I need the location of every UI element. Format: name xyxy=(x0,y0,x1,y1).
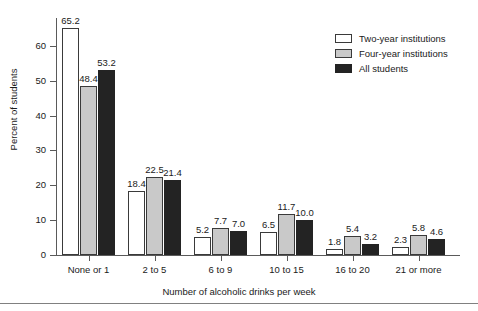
y-tick-label: 0 xyxy=(4,250,46,259)
bar-value-label: 7.0 xyxy=(225,218,252,229)
legend-item-two-year: Two-year institutions xyxy=(335,32,448,45)
x-tick xyxy=(287,256,288,261)
bar xyxy=(80,86,97,255)
y-tick-label: 10 xyxy=(4,215,46,224)
x-tick xyxy=(353,256,354,261)
bar xyxy=(296,220,313,255)
x-axis-line xyxy=(56,255,460,256)
legend-swatch-four-year-icon xyxy=(335,49,352,58)
bar xyxy=(146,177,163,255)
y-tick xyxy=(50,255,56,256)
bar-value-label: 53.2 xyxy=(93,57,120,68)
y-tick-label: 30 xyxy=(4,145,46,154)
legend-item-four-year: Four-year institutions xyxy=(335,47,448,60)
chart-legend: Two-year institutions Four-year institut… xyxy=(335,32,448,77)
bar xyxy=(260,232,277,255)
bar-value-label: 4.6 xyxy=(423,226,450,237)
x-tick xyxy=(419,256,420,261)
legend-label-four-year: Four-year institutions xyxy=(359,49,448,59)
bar-value-label: 21.4 xyxy=(159,167,186,178)
x-category-label: 21 or more xyxy=(379,264,459,275)
bar-chart-figure: Percent of students 0102030405060 65.248… xyxy=(0,0,478,311)
bar-value-label: 10.0 xyxy=(291,207,318,218)
y-tick-label: 40 xyxy=(4,111,46,120)
x-tick xyxy=(221,256,222,261)
x-tick xyxy=(155,256,156,261)
x-axis-title: Number of alcoholic drinks per week xyxy=(0,286,478,297)
x-tick xyxy=(89,256,90,261)
bar xyxy=(230,231,247,255)
bar-value-label: 3.2 xyxy=(357,231,384,242)
bar xyxy=(62,28,79,255)
bar xyxy=(194,237,211,255)
bar xyxy=(392,247,409,255)
bar xyxy=(212,228,229,255)
legend-swatch-two-year-icon xyxy=(335,34,352,43)
y-tick-label: 60 xyxy=(4,41,46,50)
bar xyxy=(98,70,115,255)
bar xyxy=(362,244,379,255)
bar xyxy=(410,235,427,255)
bar xyxy=(326,249,343,255)
bar xyxy=(128,191,145,255)
bar xyxy=(428,239,445,255)
legend-item-all-students: All students xyxy=(335,62,448,75)
top-clipped-text xyxy=(0,0,478,5)
bar xyxy=(278,214,295,255)
legend-swatch-all-students-icon xyxy=(335,64,352,73)
bottom-divider xyxy=(0,303,478,304)
y-tick-label: 50 xyxy=(4,76,46,85)
legend-label-two-year: Two-year institutions xyxy=(359,34,446,44)
bar-value-label: 65.2 xyxy=(57,15,84,26)
bar xyxy=(164,180,181,255)
y-tick-label: 20 xyxy=(4,180,46,189)
legend-label-all-students: All students xyxy=(359,64,408,74)
